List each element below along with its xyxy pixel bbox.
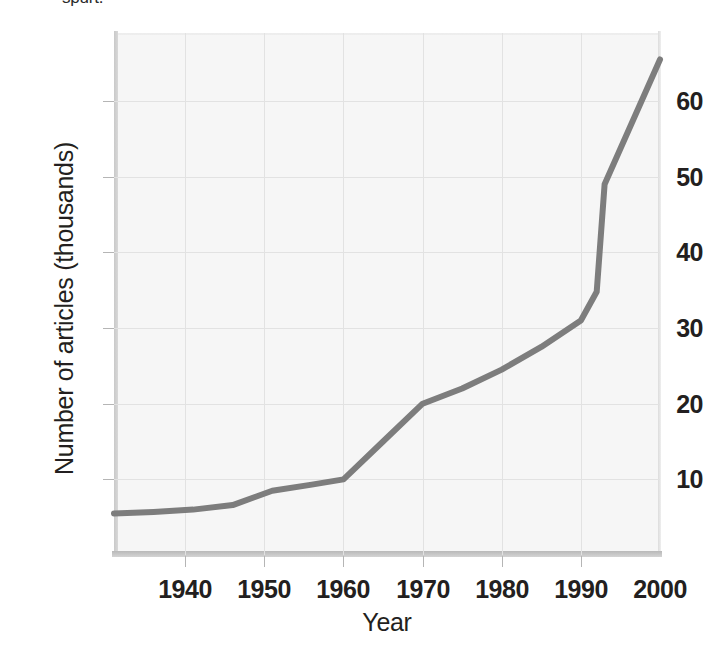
x-axis-line	[112, 551, 662, 557]
x-axis-tick	[502, 556, 503, 567]
x-tick-label: 2000	[620, 575, 700, 604]
gridline-vertical	[264, 33, 265, 555]
gridline-horizontal	[114, 328, 660, 329]
x-axis-tick	[581, 556, 582, 567]
gridline-horizontal	[114, 479, 660, 480]
x-axis-tick	[343, 556, 344, 567]
x-tick-label: 1950	[224, 575, 304, 604]
gridline-horizontal	[114, 404, 660, 405]
x-axis-tick	[185, 556, 186, 567]
x-axis-tick	[264, 556, 265, 567]
gridline-horizontal	[114, 101, 660, 102]
x-tick-label: 1960	[303, 575, 383, 604]
plot-area	[114, 33, 660, 555]
y-tick-label: 40	[607, 238, 703, 267]
x-axis-title: Year	[114, 608, 660, 637]
y-tick-label: 10	[607, 465, 703, 494]
y-axis-tick	[103, 177, 114, 178]
gridline-vertical	[423, 33, 424, 555]
gridline-vertical	[185, 33, 186, 555]
gridline-vertical	[502, 33, 503, 555]
y-axis-title: Number of articles (thousands)	[50, 59, 79, 559]
gridline-horizontal	[114, 252, 660, 253]
y-axis-tick	[103, 252, 114, 253]
y-axis-tick	[103, 479, 114, 480]
x-axis-tick	[423, 556, 424, 567]
y-axis-tick	[103, 404, 114, 405]
y-tick-label: 20	[607, 390, 703, 419]
y-axis-tick	[103, 101, 114, 102]
gridline-horizontal	[114, 177, 660, 178]
x-tick-label: 1980	[462, 575, 542, 604]
y-tick-label: 30	[607, 314, 703, 343]
y-axis-tick	[103, 328, 114, 329]
y-tick-label: 60	[607, 87, 703, 116]
x-tick-label: 1940	[145, 575, 225, 604]
x-tick-label: 1990	[541, 575, 621, 604]
x-tick-label: 1970	[383, 575, 463, 604]
chart-figure: 102030405060 194019501960197019801990200…	[0, 0, 703, 654]
gridline-vertical	[343, 33, 344, 555]
y-tick-label: 50	[607, 163, 703, 192]
gridline-vertical	[581, 33, 582, 555]
